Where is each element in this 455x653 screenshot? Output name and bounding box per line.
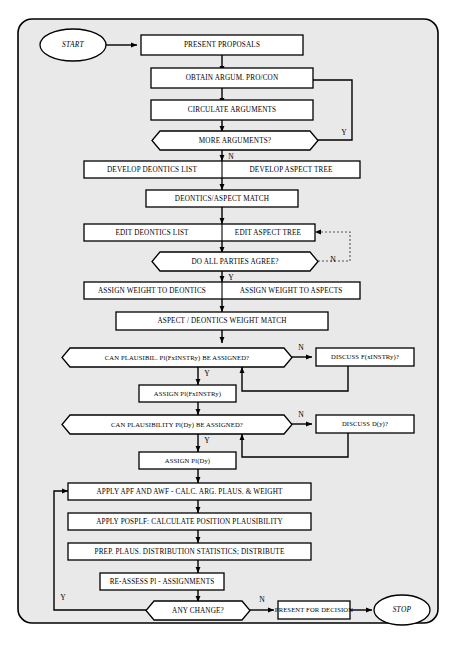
branch-label-agree-yes: Y — [228, 273, 234, 282]
branch-label-anychange-no: N — [259, 595, 265, 604]
flowchart-svg: START PRESENT PROPOSALS OBTAIN ARGUM. PR… — [0, 0, 455, 653]
node-stop-label: STOP — [393, 605, 412, 614]
node-aspect-deontics-weight-match-label: ASPECT / DEONTICS WEIGHT MATCH — [157, 317, 286, 325]
node-assign-weight-aspects-label: ASSIGN WEIGHT TO ASPECTS — [240, 287, 343, 295]
node-discuss-d-label: DISCUSS D(y)? — [342, 420, 388, 428]
branch-label-more-no: N — [228, 152, 234, 161]
branch-label-more-yes: Y — [341, 128, 347, 137]
node-assign-weight-deontics-label: ASSIGN WEIGHT TO DEONTICS — [98, 287, 206, 295]
node-edit-deontics-list-label: EDIT DEONTICS LIST — [115, 229, 189, 237]
node-develop-aspect-tree-label: DEVELOP ASPECT TREE — [250, 166, 333, 174]
node-circulate-arguments-label: CIRCULATE ARGUMENTS — [188, 106, 277, 114]
flowchart-canvas: START PRESENT PROPOSALS OBTAIN ARGUM. PR… — [0, 0, 455, 653]
branch-label-anychange-yes: Y — [60, 593, 66, 602]
node-any-change-label: ANY CHANGE? — [172, 607, 224, 615]
node-reassess-pl-label: RE-ASSESS Pl - ASSIGNMENTS — [110, 578, 215, 586]
branch-label-plausf-yes: Y — [204, 369, 210, 378]
node-obtain-argum-label: OBTAIN ARGUM. PRO/CON — [186, 74, 279, 82]
node-discuss-f-label: DISCUSS F(xINSTRy)? — [331, 353, 399, 361]
node-apply-apf-awf-label: APPLY APF AND AWF - CALC. ARG. PLAUS. & … — [96, 488, 283, 496]
node-assign-pl-f-label: ASSIGN Pl(FxINSTRy) — [154, 390, 221, 398]
branch-label-plausd-yes: Y — [204, 436, 210, 445]
node-develop-deontics-list-label: DEVELOP DEONTICS LIST — [107, 166, 197, 174]
branch-label-plausd-no: N — [298, 410, 304, 419]
node-apply-posplf-label: APPLY POSPLF: CALCULATE POSITION PLAUSIB… — [96, 518, 283, 526]
node-assign-pl-d-label: ASSIGN Pl(Dy) — [165, 457, 210, 465]
node-edit-aspect-tree-label: EDIT ASPECT TREE — [235, 229, 302, 237]
node-more-arguments-label: MORE ARGUMENTS? — [199, 137, 271, 145]
node-start-label: START — [62, 40, 84, 49]
node-do-all-parties-agree-label: DO ALL PARTIES AGREE? — [191, 258, 278, 266]
node-can-plausibil-f-label: CAN PLAUSIBIL. Pl(FxINSTRy) BE ASSIGNED? — [105, 354, 249, 362]
node-present-for-decision-label: PRESENT FOR DECISION — [275, 606, 353, 613]
node-present-proposals-label: PRESENT PROPOSALS — [184, 41, 260, 49]
node-deontics-aspect-match-label: DEONTICS/ASPECT MATCH — [175, 195, 269, 203]
node-prep-plaus-label: PREP. PLAUS. DISTRIBUTION STATISTICS; DI… — [95, 548, 285, 556]
branch-label-plausf-no: N — [298, 343, 304, 352]
branch-label-agree-no: N — [330, 255, 336, 264]
node-can-plausibility-d-label: CAN PLAUSIBILITY Pl(Dy) BE ASSIGNED? — [111, 421, 243, 429]
